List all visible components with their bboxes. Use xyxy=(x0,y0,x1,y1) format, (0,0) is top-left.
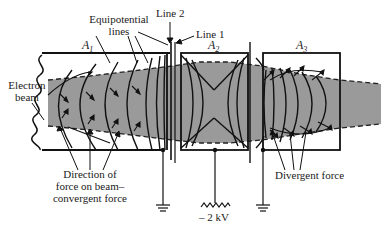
convergent-label-line1: Direction of xyxy=(50,168,130,180)
convergent-label-line3: convergent force xyxy=(50,192,130,204)
a3-sub: 3 xyxy=(303,45,307,54)
equipotential-label-line1: Equipotential xyxy=(84,13,154,25)
ground-a1 xyxy=(156,148,170,211)
a2-label: A2 xyxy=(208,39,219,56)
a2-sub: 2 xyxy=(215,45,219,54)
convergent-label-line2: force on beam– xyxy=(50,180,130,192)
equipotential-lines-label: Equipotential lines xyxy=(84,13,154,37)
a1-label: A1 xyxy=(82,39,93,56)
electron-beam-label-line2: beam xyxy=(6,91,48,103)
convergent-force-label: Direction of force on beam– convergent f… xyxy=(50,168,130,204)
voltage-label: – 2 kV xyxy=(199,211,229,223)
ground-a3 xyxy=(256,148,270,211)
line-2-label: Line 2 xyxy=(156,7,184,19)
electron-beam-label: Electron beam xyxy=(6,79,48,103)
a1-sub: 1 xyxy=(89,45,93,54)
supply-a2 xyxy=(201,148,230,207)
divergent-force-label: Divergent force xyxy=(275,169,344,181)
electron-beam-label-line1: Electron xyxy=(6,79,48,91)
a3-label: A3 xyxy=(296,39,307,56)
equipotential-label-line2: lines xyxy=(84,25,154,37)
